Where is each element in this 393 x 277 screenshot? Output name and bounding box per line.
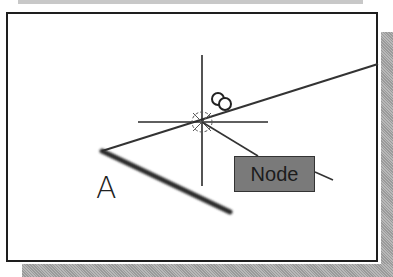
snap-tooltip: Node xyxy=(234,156,315,192)
snap-tooltip-label: Node xyxy=(251,163,299,186)
thin-line[interactable] xyxy=(102,64,378,151)
thick-line[interactable] xyxy=(102,151,230,212)
point-label-a: A xyxy=(96,173,117,203)
node-osnap-icon xyxy=(212,93,231,110)
drawing-canvas xyxy=(0,0,393,277)
